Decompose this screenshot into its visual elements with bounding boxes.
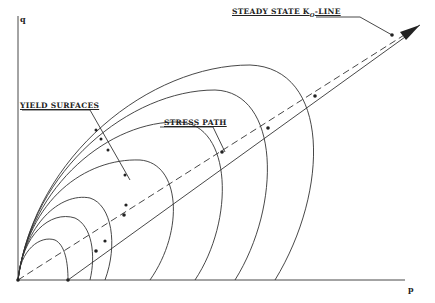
stress-path-diagram <box>0 0 435 303</box>
yield-surface-5 <box>18 122 222 280</box>
yield-surface-6 <box>18 90 267 280</box>
steady-state-suffix: -LINE <box>315 7 341 16</box>
k0-dashed-line <box>18 25 420 280</box>
yield-leader <box>22 110 130 180</box>
k0-leader <box>316 17 392 35</box>
arrowhead-icon <box>400 25 420 40</box>
q-axis-label: q <box>20 14 26 24</box>
stress-path-line <box>68 32 412 280</box>
yield-surfaces-label: YIELD SURFACES <box>20 101 99 110</box>
stress-path-label: STRESS PATH <box>164 118 227 127</box>
steady-state-prefix: STEADY STATE K <box>232 7 310 16</box>
p-axis-label: p <box>408 284 414 294</box>
yield-surface-3 <box>18 197 112 280</box>
steady-state-label: STEADY STATE KO-LINE <box>232 7 341 18</box>
